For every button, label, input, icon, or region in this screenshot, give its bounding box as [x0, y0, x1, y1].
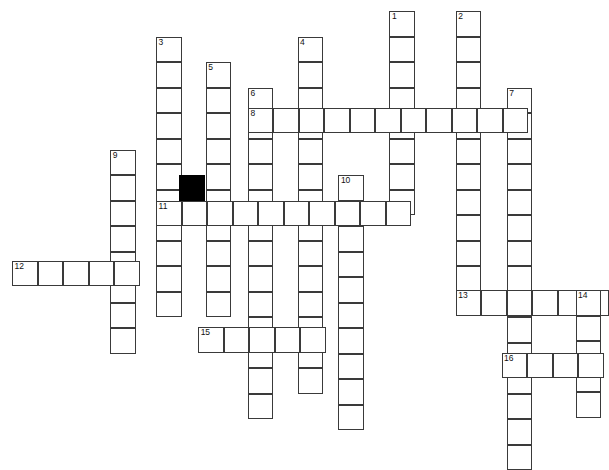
cell-11-across-8[interactable] — [335, 201, 361, 227]
cell-15-across-4[interactable] — [275, 327, 301, 353]
cell-9-down-4[interactable] — [110, 226, 136, 252]
cell-5-down-10[interactable] — [206, 292, 232, 318]
cell-5-down-1[interactable]: 5 — [206, 62, 232, 88]
cell-13-across-2[interactable] — [481, 290, 507, 316]
cell-14-down-1[interactable]: 14 — [576, 290, 602, 316]
cell-1-down-6[interactable] — [389, 139, 415, 165]
cell-9-down-1[interactable]: 9 — [110, 150, 136, 176]
cell-15-across-1[interactable]: 15 — [198, 327, 224, 353]
cell-8-across-11[interactable] — [503, 108, 529, 134]
cell-10-down-4[interactable] — [338, 252, 364, 278]
cell-8-across-2[interactable] — [273, 108, 299, 134]
cell-4-down-9[interactable] — [298, 241, 324, 267]
cell-1-down-3[interactable] — [389, 62, 415, 88]
cell-9-down-2[interactable] — [110, 175, 136, 201]
cell-15-across-2[interactable] — [224, 327, 250, 353]
cell-10-down-10[interactable] — [338, 405, 364, 431]
cell-4-down-6[interactable] — [298, 164, 324, 190]
cell-9-down-8[interactable] — [110, 328, 136, 354]
cell-15-across-5[interactable] — [300, 327, 326, 353]
cell-2-down-6[interactable] — [456, 139, 482, 165]
cell-12-across-5[interactable] — [114, 261, 140, 287]
cell-11-across-10[interactable] — [386, 201, 412, 227]
cell-5-down-8[interactable] — [206, 241, 232, 267]
cell-14-down-5[interactable] — [576, 392, 602, 418]
cell-7-down-3[interactable] — [507, 139, 533, 165]
cell-13-across-3[interactable] — [507, 290, 533, 316]
cell-9-down-7[interactable] — [110, 303, 136, 329]
cell-7-down-5[interactable] — [507, 190, 533, 216]
cell-7-down-15[interactable] — [507, 445, 533, 470]
cell-3-down-1[interactable]: 3 — [156, 37, 182, 63]
cell-10-down-1[interactable]: 10 — [338, 175, 364, 201]
cell-9-down-3[interactable] — [110, 201, 136, 227]
cell-4-down-1[interactable]: 4 — [298, 37, 324, 63]
cell-7-down-13[interactable] — [507, 394, 533, 420]
cell-11-across-1[interactable]: 11 — [156, 201, 182, 227]
cell-3-down-11[interactable] — [156, 292, 182, 318]
cell-2-down-3[interactable] — [456, 62, 482, 88]
cell-8-across-9[interactable] — [452, 108, 478, 134]
cell-11-across-7[interactable] — [309, 201, 335, 227]
cell-8-across-3[interactable] — [299, 108, 325, 134]
cell-10-down-7[interactable] — [338, 328, 364, 354]
cell-5-down-9[interactable] — [206, 266, 232, 292]
cell-2-down-10[interactable] — [456, 241, 482, 267]
cell-7-down-7[interactable] — [507, 241, 533, 267]
cell-8-across-6[interactable] — [375, 108, 401, 134]
cell-3-down-3[interactable] — [156, 88, 182, 114]
cell-4-down-10[interactable] — [298, 266, 324, 292]
cell-11-across-9[interactable] — [360, 201, 386, 227]
cell-16-across-1[interactable]: 16 — [502, 353, 528, 379]
cell-14-down-2[interactable] — [576, 316, 602, 342]
cell-11-across-4[interactable] — [233, 201, 259, 227]
cell-15-across-3[interactable] — [249, 327, 275, 353]
cell-12-across-1[interactable]: 12 — [12, 261, 38, 287]
cell-6-down-12[interactable] — [248, 368, 274, 394]
cell-3-down-4[interactable] — [156, 113, 182, 139]
cell-8-across-5[interactable] — [350, 108, 376, 134]
cell-10-down-9[interactable] — [338, 379, 364, 405]
cell-12-across-2[interactable] — [38, 261, 64, 287]
cell-6-down-8[interactable] — [248, 266, 274, 292]
cell-4-down-2[interactable] — [298, 62, 324, 88]
cell-4-down-5[interactable] — [298, 139, 324, 165]
cell-5-down-4[interactable] — [206, 139, 232, 165]
cell-10-down-6[interactable] — [338, 303, 364, 329]
cell-5-down-5[interactable] — [206, 164, 232, 190]
cell-2-down-11[interactable] — [456, 266, 482, 292]
cell-6-down-13[interactable] — [248, 394, 274, 420]
cell-13-across-1[interactable]: 13 — [456, 290, 482, 316]
cell-8-across-8[interactable] — [426, 108, 452, 134]
cell-10-down-8[interactable] — [338, 354, 364, 380]
cell-2-down-9[interactable] — [456, 215, 482, 241]
cell-16-across-2[interactable] — [527, 353, 553, 379]
cell-12-across-4[interactable] — [89, 261, 115, 287]
cell-11-across-6[interactable] — [284, 201, 310, 227]
cell-2-down-1[interactable]: 2 — [456, 11, 482, 37]
cell-8-across-4[interactable] — [324, 108, 350, 134]
cell-4-down-14[interactable] — [298, 368, 324, 394]
cell-16-across-4[interactable] — [578, 353, 604, 379]
cell-11-across-5[interactable] — [258, 201, 284, 227]
cell-10-down-5[interactable] — [338, 277, 364, 303]
cell-5-down-2[interactable] — [206, 88, 232, 114]
cell-6-down-4[interactable] — [248, 164, 274, 190]
cell-4-down-11[interactable] — [298, 292, 324, 318]
cell-12-across-3[interactable] — [63, 261, 89, 287]
cell-7-down-4[interactable] — [507, 164, 533, 190]
cell-13-across-4[interactable] — [532, 290, 558, 316]
cell-3-down-6[interactable] — [156, 164, 182, 190]
cell-16-across-3[interactable] — [553, 353, 579, 379]
cell-11-across-3[interactable] — [207, 201, 233, 227]
cell-5-down-3[interactable] — [206, 113, 232, 139]
cell-2-down-8[interactable] — [456, 190, 482, 216]
cell-10-down-3[interactable] — [338, 226, 364, 252]
cell-3-down-5[interactable] — [156, 139, 182, 165]
cell-1-down-2[interactable] — [389, 37, 415, 63]
cell-1-down-1[interactable]: 1 — [389, 11, 415, 37]
cell-6-down-3[interactable] — [248, 139, 274, 165]
cell-3-down-9[interactable] — [156, 241, 182, 267]
cell-7-down-10[interactable] — [507, 317, 533, 343]
